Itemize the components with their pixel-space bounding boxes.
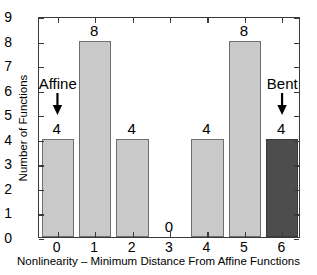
y-tick-7 — [39, 67, 44, 68]
bar-chart-figure: Number of Functions AffineBent 012345678… — [0, 0, 317, 275]
x-tick-2 — [133, 232, 134, 237]
y-tick-label-2: 2 — [0, 182, 12, 196]
y-tick-right-4 — [294, 141, 299, 142]
y-tick-label-0: 0 — [0, 231, 12, 245]
x-tick-top-4 — [207, 18, 208, 23]
bar-value-label-6: 4 — [277, 121, 285, 136]
x-tick-label-6: 6 — [277, 240, 285, 254]
x-tick-label-3: 3 — [165, 240, 173, 254]
x-tick-label-2: 2 — [128, 240, 136, 254]
y-tick-right-8 — [294, 43, 299, 44]
plot-area: AffineBent — [38, 17, 300, 238]
bar-value-label-0: 4 — [53, 121, 61, 136]
bar-6 — [266, 139, 298, 237]
annotation-bent: Bent — [267, 76, 298, 115]
bar-0 — [42, 139, 74, 237]
annotation-label-bent: Bent — [267, 76, 298, 91]
x-axis-title: Nonlinearity – Minimum Distance From Aff… — [0, 256, 317, 268]
y-tick-right-1 — [294, 214, 299, 215]
y-axis-title: Number of Functions — [18, 48, 30, 208]
arrow-down-icon — [52, 93, 63, 115]
annotation-affine: Affine — [39, 76, 77, 115]
y-tick-label-8: 8 — [0, 35, 12, 49]
x-tick-label-4: 4 — [203, 240, 211, 254]
y-tick-label-5: 5 — [0, 108, 12, 122]
bar-4 — [191, 139, 223, 237]
x-tick-label-1: 1 — [90, 240, 98, 254]
annotation-label-affine: Affine — [39, 76, 77, 91]
y-tick-4 — [39, 141, 44, 142]
x-tick-1 — [95, 232, 96, 237]
y-tick-0 — [39, 239, 44, 240]
bar-value-label-5: 8 — [240, 23, 248, 38]
y-tick-5 — [39, 116, 44, 117]
y-tick-label-3: 3 — [0, 157, 12, 171]
x-tick-5 — [245, 232, 246, 237]
bar-value-label-1: 8 — [90, 23, 98, 38]
bars-layer — [39, 18, 299, 237]
y-tick-right-7 — [294, 67, 299, 68]
bar-value-label-4: 4 — [202, 121, 210, 136]
y-tick-right-9 — [294, 18, 299, 19]
x-tick-top-6 — [282, 18, 283, 23]
bar-value-label-2: 4 — [127, 121, 135, 136]
x-tick-top-2 — [133, 18, 134, 23]
y-axis-title-wrapper: Number of Functions — [0, 17, 1, 238]
bar-1 — [79, 41, 111, 237]
x-tick-label-5: 5 — [240, 240, 248, 254]
bar-5 — [229, 41, 261, 237]
y-tick-label-6: 6 — [0, 84, 12, 98]
y-tick-label-9: 9 — [0, 10, 12, 24]
y-tick-2 — [39, 190, 44, 191]
y-tick-label-4: 4 — [0, 133, 12, 147]
bar-value-label-3: 0 — [165, 219, 173, 234]
x-tick-4 — [207, 232, 208, 237]
y-tick-right-5 — [294, 116, 299, 117]
y-tick-9 — [39, 18, 44, 19]
arrow-down-icon — [277, 93, 288, 115]
x-tick-top-0 — [58, 18, 59, 23]
y-tick-right-2 — [294, 190, 299, 191]
y-tick-8 — [39, 43, 44, 44]
y-tick-label-1: 1 — [0, 206, 12, 220]
bar-2 — [116, 139, 148, 237]
y-tick-1 — [39, 214, 44, 215]
y-tick-3 — [39, 165, 44, 166]
y-tick-right-0 — [294, 239, 299, 240]
x-tick-0 — [58, 232, 59, 237]
x-tick-6 — [282, 232, 283, 237]
x-tick-label-0: 0 — [53, 240, 61, 254]
y-tick-label-7: 7 — [0, 59, 12, 73]
x-tick-top-3 — [170, 18, 171, 23]
y-tick-right-3 — [294, 165, 299, 166]
